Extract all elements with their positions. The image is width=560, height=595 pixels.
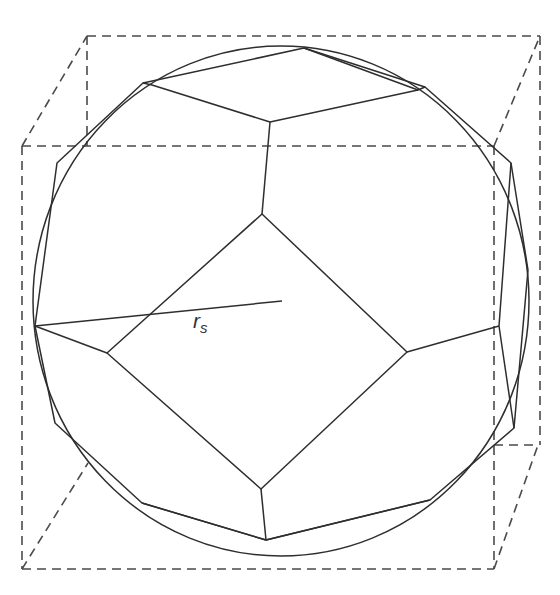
- bounding-cube: [22, 36, 540, 569]
- radius-symbol: r: [193, 309, 200, 332]
- polyhedron-diagram: [0, 0, 560, 595]
- truncated-octahedron: [35, 48, 528, 540]
- radius-label: rs: [193, 309, 208, 336]
- radius-line: [35, 301, 282, 326]
- radius-subscript: s: [200, 319, 208, 336]
